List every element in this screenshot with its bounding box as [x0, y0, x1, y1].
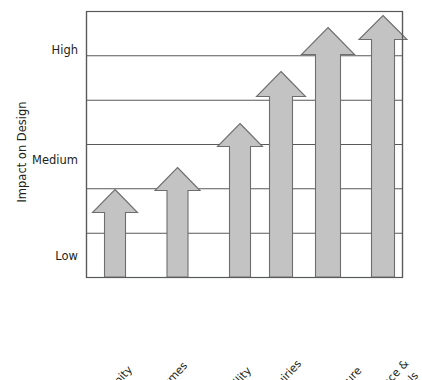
y-axis-title: Impact on Design: [15, 101, 29, 202]
ytick-label-medium: Medium: [32, 153, 78, 167]
chart-container: High Medium Low Impact on Design User Co…: [0, 0, 422, 380]
ytick-label-low: Low: [55, 249, 78, 263]
impact-on-design-bar-chart: High Medium Low Impact on Design User Co…: [0, 0, 422, 380]
ytick-label-high: High: [52, 43, 78, 57]
